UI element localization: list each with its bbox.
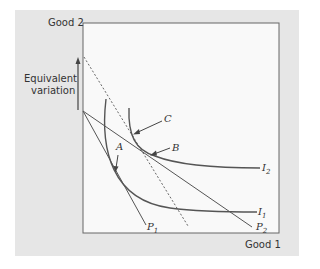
curve-i2-label: I2 xyxy=(262,162,270,178)
arrow-head-icon xyxy=(76,57,81,64)
curve-i1-label: I1 xyxy=(258,206,266,222)
point-a-label: A xyxy=(116,141,123,153)
budget-p2-label: P2 xyxy=(256,221,267,237)
point-b-label: B xyxy=(172,142,179,154)
plot-frame xyxy=(83,23,279,233)
annotation-line2: variation xyxy=(31,85,75,97)
point-c-label: C xyxy=(164,113,172,125)
budget-p1-label: P1 xyxy=(147,221,158,237)
y-axis-label: Good 2 xyxy=(48,17,84,29)
x-axis-label: Good 1 xyxy=(245,239,281,251)
annotation-line1: Equivalent xyxy=(24,73,77,85)
